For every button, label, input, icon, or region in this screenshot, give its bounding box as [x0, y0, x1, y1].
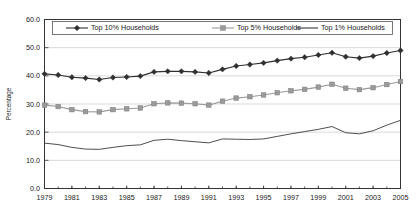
data-point-marker [97, 110, 102, 115]
data-point-marker [124, 74, 129, 79]
legend-label: Top 1% Households [321, 23, 385, 32]
data-point-marker [275, 58, 280, 63]
data-point-marker [220, 99, 225, 104]
data-point-marker [370, 53, 375, 58]
data-point-marker [357, 87, 362, 92]
data-point-marker [288, 56, 293, 61]
data-point-marker [151, 69, 156, 74]
data-point-marker [330, 82, 335, 87]
y-tick-label: 20.0 [26, 128, 40, 137]
y-tick-label: 30.0 [26, 100, 40, 109]
data-point-marker [179, 69, 184, 74]
chart-legend: Top 10% HouseholdsTop 5% HouseholdsTop 1… [53, 22, 393, 35]
data-point-marker [69, 75, 74, 80]
data-point-marker [384, 50, 389, 55]
legend-item-3[interactable]: Top 1% Households [296, 23, 385, 32]
data-point-marker [261, 93, 266, 98]
chart-container: 0.010.020.030.040.050.060.0 197919811983… [0, 0, 417, 209]
x-tick-label: 1985 [119, 193, 135, 202]
data-point-marker [357, 55, 362, 60]
data-point-marker [302, 87, 307, 92]
data-point-marker [165, 69, 170, 74]
series-2 [42, 79, 403, 114]
x-tick-label: 1999 [310, 193, 326, 202]
x-tick-label: 2005 [393, 193, 409, 202]
x-axis-tick-labels: 1979198119831985198719891991199319951997… [37, 186, 409, 202]
legend-item-1[interactable]: Top 10% Households [66, 23, 159, 32]
data-point-marker [343, 86, 348, 91]
income-share-line-chart: 0.010.020.030.040.050.060.0 197919811983… [0, 0, 417, 209]
x-tick-label: 1987 [146, 193, 162, 202]
data-point-marker [261, 60, 266, 65]
x-tick-label: 2003 [365, 193, 381, 202]
data-point-marker [55, 72, 60, 77]
data-point-marker [316, 85, 321, 90]
y-tick-label: 50.0 [26, 43, 40, 52]
data-point-marker [385, 82, 390, 87]
data-point-marker [74, 25, 79, 30]
data-point-marker [207, 103, 212, 108]
x-tick-label: 1983 [91, 193, 107, 202]
data-point-marker [193, 101, 198, 106]
series-line [45, 50, 401, 79]
data-point-marker [275, 90, 280, 95]
data-point-marker [398, 48, 403, 53]
data-point-marker [179, 101, 184, 106]
y-tick-label: 60.0 [26, 15, 40, 24]
data-point-marker [206, 70, 211, 75]
data-point-marker [233, 63, 238, 68]
legend-label: Top 10% Households [91, 23, 159, 32]
y-axis-title: Percentage [5, 87, 13, 120]
data-point-marker [289, 88, 294, 93]
data-point-marker [248, 94, 253, 99]
data-series-group [42, 48, 403, 150]
data-point-marker [83, 75, 88, 80]
data-point-marker [138, 73, 143, 78]
data-point-marker [316, 52, 321, 57]
data-point-marker [398, 79, 403, 84]
data-point-marker [221, 26, 226, 31]
data-point-marker [165, 101, 170, 106]
legend-item-2[interactable]: Top 5% Households [212, 23, 301, 32]
data-point-marker [124, 106, 129, 111]
x-tick-label: 1993 [228, 193, 244, 202]
data-point-marker [234, 96, 239, 101]
y-tick-label: 40.0 [26, 71, 40, 80]
data-point-marker [220, 67, 225, 72]
data-point-marker [343, 54, 348, 59]
data-point-marker [192, 69, 197, 74]
x-tick-label: 1979 [37, 193, 53, 202]
y-tick-label: 10.0 [26, 156, 40, 165]
data-point-marker [56, 104, 61, 109]
series-3 [45, 120, 401, 149]
series-line [45, 120, 401, 149]
data-point-marker [111, 107, 116, 112]
x-tick-label: 1989 [173, 193, 189, 202]
data-point-marker [329, 50, 334, 55]
data-point-marker [247, 62, 252, 67]
data-point-marker [42, 103, 47, 108]
legend-label: Top 5% Households [237, 23, 301, 32]
x-tick-label: 1981 [64, 193, 80, 202]
x-tick-label: 1995 [256, 193, 272, 202]
data-point-marker [83, 109, 88, 114]
data-point-marker [70, 107, 75, 112]
x-tick-label: 2001 [338, 193, 354, 202]
data-point-marker [371, 85, 376, 90]
data-point-marker [152, 101, 157, 106]
data-point-marker [97, 77, 102, 82]
series-1 [42, 48, 403, 82]
data-point-marker [138, 106, 143, 111]
x-tick-label: 1991 [201, 193, 217, 202]
x-tick-label: 1997 [283, 193, 299, 202]
data-point-marker [302, 55, 307, 60]
